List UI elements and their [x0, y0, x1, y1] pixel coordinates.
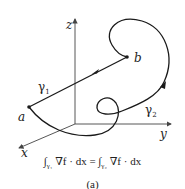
gamma-2-label: γ2 — [145, 104, 157, 119]
point-b-dot — [125, 55, 129, 59]
point-b-label: b — [134, 52, 142, 64]
y-axis-label: y — [160, 128, 167, 140]
line-integral-figure: z y x a b γ1 γ2 ∫γ₁ ∇f · dx = ∫γ₂ ∇f · d… — [0, 0, 185, 189]
figure-caption: (a) — [0, 178, 185, 189]
point-a-dot — [27, 105, 31, 109]
point-a-label: a — [18, 111, 25, 123]
z-axis-label: z — [66, 19, 72, 31]
x-axis — [19, 124, 75, 148]
path-independence-equation: ∫γ₁ ∇f · dx = ∫γ₂ ∇f · dx — [0, 155, 185, 170]
gamma-1-label: γ1 — [38, 81, 50, 96]
